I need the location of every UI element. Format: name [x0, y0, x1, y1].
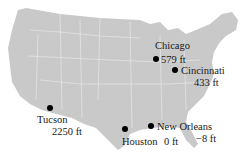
city-marker-cincinnati[interactable]: [172, 67, 178, 73]
city-label-chicago: Chicago: [155, 40, 190, 51]
elevation-label-new-orleans: −8 ft: [196, 133, 216, 144]
city-marker-chicago[interactable]: [153, 56, 159, 62]
elevation-label-tucson: 2250 ft: [52, 126, 82, 137]
us-elevation-map: Chicago 579 ft Cincinnati 433 ft Tucson …: [0, 0, 252, 158]
city-label-cincinnati: Cincinnati: [181, 65, 225, 76]
elevation-label-cincinnati: 433 ft: [194, 77, 219, 88]
city-label-houston: Houston: [122, 136, 158, 147]
city-marker-tucson[interactable]: [47, 105, 53, 111]
city-label-tucson: Tucson: [37, 114, 68, 125]
city-label-new-orleans: New Orleans: [157, 121, 212, 132]
city-marker-houston[interactable]: [122, 126, 128, 132]
city-marker-new-orleans[interactable]: [148, 123, 154, 129]
elevation-label-chicago: 579 ft: [161, 54, 186, 65]
elevation-label-houston: 0 ft: [164, 136, 178, 147]
